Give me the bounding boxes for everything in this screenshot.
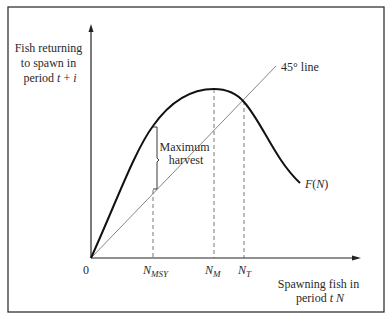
y-axis-label: Fish returning to spawn in period t + i [15, 41, 86, 85]
x-axis [91, 256, 361, 261]
maximum-harvest-label: Maximum harvest [160, 140, 213, 167]
fn-curve [91, 89, 300, 258]
45-degree-line-label: 45° line [281, 60, 319, 74]
x-axis-label: Spawning fish in period t N [278, 277, 362, 305]
arrow-right-icon [352, 256, 361, 261]
fn-curve-label: F(N) [304, 177, 328, 191]
tick-label-nt: NT [237, 263, 252, 279]
arrow-up-icon [89, 24, 94, 32]
y-axis [89, 24, 94, 258]
origin-label: 0 [83, 263, 89, 277]
tick-label-nmsy: NMSY [142, 263, 169, 279]
y-axis-label-period: period t + i [23, 71, 76, 85]
tick-label-nm: NM [204, 263, 221, 279]
harvest-bracket [153, 127, 159, 189]
stock-recruitment-diagram: Fish returning to spawn in period t + i … [0, 0, 388, 318]
